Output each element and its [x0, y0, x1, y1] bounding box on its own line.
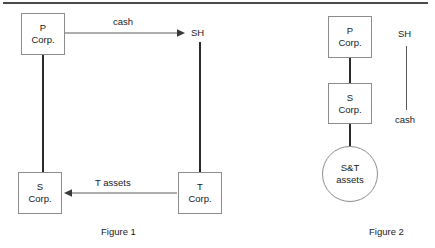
label-sh-figure2: SH	[398, 28, 411, 40]
label-cash-figure1: cash	[113, 16, 133, 28]
label-sh-figure1: SH	[191, 27, 204, 39]
arrow-cash-figure1	[64, 26, 188, 40]
node-st-assets-figure2-line2: assets	[336, 174, 363, 186]
node-s-corp-figure2-line1: S	[347, 92, 353, 104]
connector-sh-to-t-corp-figure1	[199, 42, 201, 172]
node-p-corp-figure1-line2: Corp.	[31, 34, 54, 46]
node-p-corp-figure2-line1: P	[347, 25, 353, 37]
node-t-corp-figure1: T Corp.	[178, 172, 222, 214]
caption-figure2: Figure 2	[369, 226, 404, 238]
connector-p-corp-to-s-corp-figure1	[42, 55, 44, 172]
label-cash-figure2: cash	[395, 114, 415, 126]
node-p-corp-figure2: P Corp.	[328, 16, 372, 58]
connector-sh-figure2	[406, 46, 407, 110]
node-t-corp-figure1-line1: T	[197, 181, 203, 193]
node-t-corp-figure1-line2: Corp.	[188, 193, 211, 205]
connector-s-corp-to-st-assets-figure2	[349, 124, 351, 148]
node-s-corp-figure1-line1: S	[37, 181, 43, 193]
header-divider	[3, 2, 428, 4]
node-st-assets-figure2: S&T assets	[322, 146, 378, 202]
node-s-corp-figure2: S Corp.	[328, 83, 372, 124]
node-p-corp-figure1: P Corp.	[21, 13, 65, 55]
connector-p-corp-to-s-corp-figure2	[349, 58, 351, 83]
node-s-corp-figure1-line2: Corp.	[28, 193, 51, 205]
diagram-canvas: P Corp. cash SH T Corp. S Corp. T assets…	[0, 0, 435, 248]
node-s-corp-figure1: S Corp.	[18, 172, 62, 214]
label-t-assets-figure1: T assets	[95, 177, 131, 189]
node-p-corp-figure2-line2: Corp.	[338, 37, 361, 49]
caption-figure1: Figure 1	[101, 226, 136, 238]
node-st-assets-figure2-line1: S&T	[341, 162, 359, 174]
node-s-corp-figure2-line2: Corp.	[338, 104, 361, 116]
node-p-corp-figure1-line1: P	[40, 22, 46, 34]
